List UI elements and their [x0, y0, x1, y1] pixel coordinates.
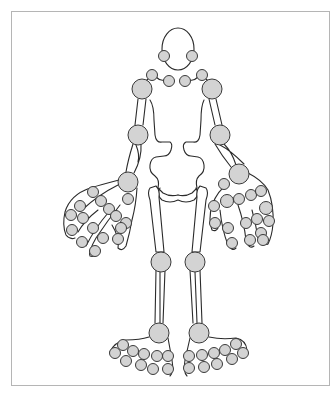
torso-left-outline [150, 100, 178, 196]
joint-foot-right-2[interactable] [184, 363, 195, 374]
joint-foot-right-6[interactable] [212, 359, 223, 370]
joint-wrist-right[interactable] [229, 164, 249, 184]
joint-elbow-left[interactable] [128, 125, 148, 145]
joint-hand-right-2[interactable] [221, 195, 234, 208]
forearm-left [126, 144, 141, 173]
joint-hand-right-6[interactable] [256, 186, 267, 197]
joint-hand-right-4[interactable] [234, 194, 245, 205]
joint-hand-right-16[interactable] [258, 235, 269, 246]
joint-foot-right-1[interactable] [184, 351, 195, 362]
joint-foot-left-3[interactable] [128, 346, 139, 357]
joint-hand-right-8[interactable] [210, 218, 221, 229]
joint-homunculus-diagram [0, 0, 335, 396]
joint-hand-right-14[interactable] [227, 238, 238, 249]
joint-hand-right-3[interactable] [209, 201, 220, 212]
joint-foot-right-8[interactable] [227, 354, 238, 365]
joint-ankle-left[interactable] [149, 323, 169, 343]
shin-right [190, 270, 202, 323]
joint-sternoclavicular-left[interactable] [164, 76, 175, 87]
joint-shoulder-left[interactable] [132, 79, 152, 99]
joint-foot-left-5[interactable] [139, 349, 150, 360]
joint-shoulder-right[interactable] [202, 79, 222, 99]
joint-sternoclavicular-right[interactable] [180, 76, 191, 87]
joint-hand-right-1[interactable] [219, 179, 230, 190]
joint-hand-left-8[interactable] [78, 213, 89, 224]
joint-foot-left-7[interactable] [152, 351, 163, 362]
joint-hand-right-12[interactable] [264, 216, 275, 227]
joint-hand-right-15[interactable] [245, 235, 256, 246]
joint-hand-right-7[interactable] [260, 202, 273, 215]
joint-hand-left-12[interactable] [98, 233, 109, 244]
joint-hand-left-1[interactable] [123, 194, 134, 205]
joints-layer [66, 51, 275, 375]
joint-foot-left-2[interactable] [110, 348, 121, 359]
joint-foot-right-4[interactable] [199, 362, 210, 373]
joint-foot-left-9[interactable] [163, 351, 174, 362]
joint-foot-right-3[interactable] [197, 350, 208, 361]
joint-hand-right-5[interactable] [246, 190, 257, 201]
joint-hand-left-13[interactable] [77, 237, 88, 248]
joint-foot-right-10[interactable] [238, 348, 249, 359]
joint-foot-left-10[interactable] [163, 364, 174, 375]
joint-acromioclavicular-right[interactable] [197, 70, 208, 81]
joint-hand-right-11[interactable] [252, 214, 263, 225]
joint-foot-left-4[interactable] [121, 356, 132, 367]
joint-acromioclavicular-left[interactable] [147, 70, 158, 81]
joint-hand-right-10[interactable] [241, 218, 252, 229]
upper-arm-left [135, 99, 146, 125]
femur-left [149, 186, 165, 252]
joint-hand-left-16[interactable] [116, 223, 127, 234]
joint-hand-left-6[interactable] [111, 211, 122, 222]
joint-hand-left-14[interactable] [113, 234, 124, 245]
joint-foot-right-9[interactable] [231, 339, 242, 350]
joint-hand-right-9[interactable] [223, 223, 234, 234]
joint-foot-right-7[interactable] [220, 345, 231, 356]
joint-hand-left-15[interactable] [90, 246, 101, 257]
joint-tmj-right[interactable] [187, 51, 198, 62]
joint-wrist-left[interactable] [118, 172, 138, 192]
joint-foot-right-5[interactable] [209, 348, 220, 359]
femur-right [192, 186, 208, 252]
upper-arm-right [209, 99, 222, 125]
joint-tmj-left[interactable] [159, 51, 170, 62]
joint-knee-left[interactable] [151, 252, 171, 272]
joint-hand-left-11[interactable] [67, 225, 78, 236]
joint-hand-left-9[interactable] [88, 223, 99, 234]
joint-foot-left-8[interactable] [148, 364, 159, 375]
torso-right-outline [178, 100, 204, 196]
head-outline [162, 28, 194, 70]
joint-ankle-right[interactable] [189, 323, 209, 343]
joint-foot-left-6[interactable] [136, 360, 147, 371]
joint-knee-right[interactable] [185, 252, 205, 272]
joint-hand-left-2[interactable] [88, 187, 99, 198]
joint-elbow-right[interactable] [210, 125, 230, 145]
joint-hand-left-7[interactable] [66, 210, 77, 221]
shin-left [155, 270, 165, 323]
joint-hand-left-4[interactable] [75, 201, 86, 212]
